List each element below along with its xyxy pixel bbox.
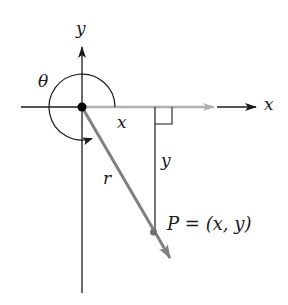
y-axis-label: y (76, 20, 86, 37)
coordinate-plane (0, 0, 288, 305)
origin-dot (78, 103, 87, 112)
point-p-label: P = (x, y) (167, 215, 252, 233)
point-p-dot (150, 229, 157, 236)
right-angle-marker (155, 107, 172, 124)
point-p-name: P (167, 213, 179, 234)
x-axis-label: x (264, 96, 274, 113)
y-leg-label: y (161, 152, 171, 169)
point-p-coords: (x, y) (206, 213, 252, 234)
theta-label: θ (38, 73, 48, 90)
radius-label: r (103, 170, 111, 187)
diagram-canvas: y x θ x y r P = (x, y) (0, 0, 288, 305)
x-leg-label: x (117, 114, 127, 131)
point-p-equals: = (185, 213, 200, 234)
